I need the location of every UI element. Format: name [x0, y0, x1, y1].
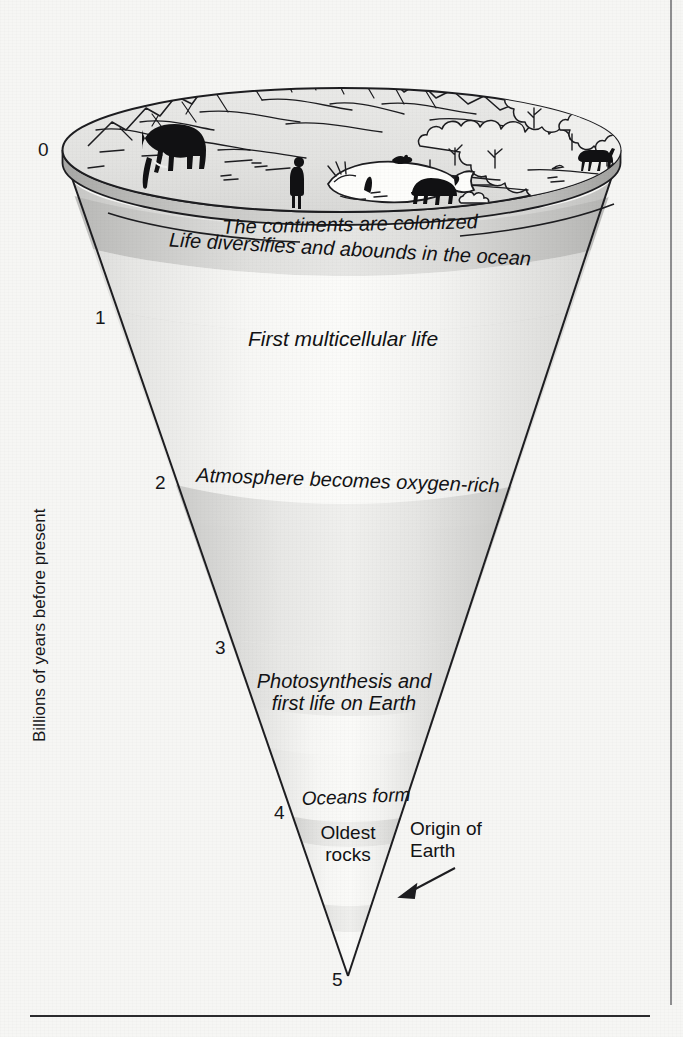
label-origin-of-earth: Origin of Earth	[410, 818, 540, 861]
origin-arrow-head	[400, 885, 416, 898]
origin-arrow	[400, 868, 455, 898]
axis-tick-5: 5	[332, 970, 343, 989]
bottom-divider	[30, 1015, 650, 1017]
axis-tick-0: 0	[38, 140, 49, 159]
axis-tick-3: 3	[215, 638, 226, 657]
label-oldest-rocks-line2: rocks	[293, 844, 403, 866]
right-margin-divider	[670, 0, 672, 1005]
label-photosynthesis-line2: first life on Earth	[238, 692, 450, 714]
label-oldest-rocks-line1: Oldest	[293, 822, 403, 844]
birds	[396, 30, 437, 56]
cone-diagram-svg	[0, 0, 683, 1037]
figure-canvas: 0 1 2 3 4 5 Billions of years before pre…	[0, 0, 683, 1037]
label-origin-line2: Earth	[410, 840, 540, 862]
label-oldest-rocks: Oldest rocks	[293, 822, 403, 865]
label-origin-line1: Origin of	[410, 818, 540, 840]
axis-tick-1: 1	[95, 308, 106, 327]
label-photosynthesis-line1: Photosynthesis and	[238, 670, 450, 692]
axis-tick-2: 2	[155, 473, 166, 492]
label-first-multicellular-life: First multicellular life	[183, 327, 503, 351]
axis-title: Billions of years before present	[30, 509, 50, 742]
label-photosynthesis: Photosynthesis and first life on Earth	[238, 670, 450, 715]
